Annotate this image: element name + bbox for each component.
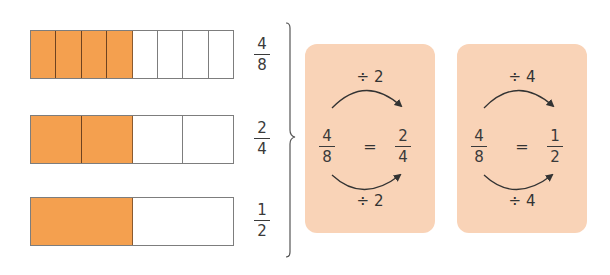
bar-segment-empty <box>183 31 208 78</box>
fraction-line <box>254 54 270 55</box>
bar-segment-filled <box>31 116 82 163</box>
denominator: 4 <box>398 149 408 165</box>
fraction-line <box>395 146 411 147</box>
bar-segment-filled <box>56 31 81 78</box>
bar-segment-filled <box>31 198 133 245</box>
numerator: 4 <box>257 36 267 52</box>
fraction-line <box>254 138 270 139</box>
bottom-operation-label: ÷ 2 <box>305 192 435 210</box>
equals-sign: = <box>305 137 435 156</box>
equivalence-card-divide-2: ÷ 2 4 8 = 2 4 ÷ 2 <box>305 44 435 233</box>
right-fraction: 1 2 <box>547 128 563 165</box>
denominator: 8 <box>257 57 267 73</box>
top-operation-label: ÷ 4 <box>457 68 587 86</box>
fraction-bar-quarters <box>30 115 234 164</box>
fraction-line <box>547 146 563 147</box>
numerator: 2 <box>398 128 408 144</box>
numerator: 1 <box>550 128 560 144</box>
denominator: 2 <box>257 223 267 239</box>
curly-brace-icon <box>284 22 298 258</box>
bar-segment-empty <box>133 31 158 78</box>
bottom-operation-label: ÷ 4 <box>457 192 587 210</box>
numerator: 2 <box>257 120 267 136</box>
top-operation-label: ÷ 2 <box>305 68 435 86</box>
bar-fraction-label: 2 4 <box>254 120 270 157</box>
bar-segment-filled <box>82 116 133 163</box>
numerator: 1 <box>257 202 267 218</box>
fraction-bar-halves <box>30 197 234 246</box>
bar-segment-filled <box>82 31 107 78</box>
bar-fraction-label: 4 8 <box>254 36 270 73</box>
denominator: 4 <box>257 141 267 157</box>
fraction-bar-eighths <box>30 30 234 79</box>
fraction-line <box>254 220 270 221</box>
equivalence-card-divide-4: ÷ 4 4 8 = 1 2 ÷ 4 <box>457 44 587 233</box>
denominator: 2 <box>550 149 560 165</box>
bar-segment-filled <box>31 31 56 78</box>
bar-segment-filled <box>107 31 132 78</box>
bar-segment-empty <box>183 116 233 163</box>
bar-fraction-label: 1 2 <box>254 202 270 239</box>
bar-segment-empty <box>133 198 234 245</box>
bar-segment-empty <box>133 116 184 163</box>
bar-segment-empty <box>158 31 183 78</box>
equals-sign: = <box>457 137 587 156</box>
bar-segment-empty <box>209 31 233 78</box>
right-fraction: 2 4 <box>395 128 411 165</box>
